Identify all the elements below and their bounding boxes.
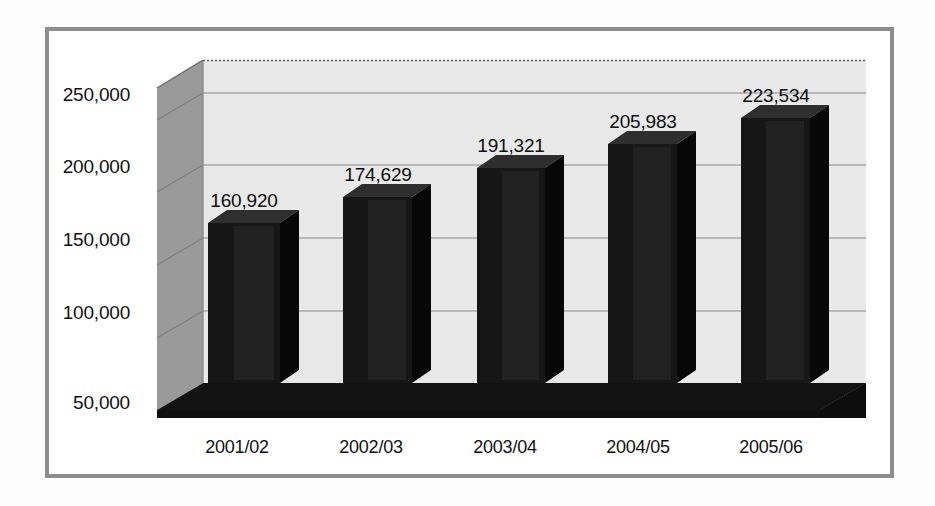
ytick-label-250000: 250,000 bbox=[10, 84, 130, 106]
bar-front-highlight bbox=[234, 226, 274, 380]
xtick-label-2003-04: 2003/04 bbox=[445, 437, 565, 458]
xtick-label-2004-05: 2004/05 bbox=[578, 437, 698, 458]
xtick-label-2005-06: 2005/06 bbox=[711, 437, 831, 458]
bar-side-face bbox=[810, 105, 829, 383]
bar-value-2004-05: 205,983 bbox=[578, 111, 708, 133]
bar-side-face bbox=[677, 131, 696, 383]
bar-side-face bbox=[280, 210, 299, 383]
chart-figure: 250,000 200,000 150,000 100,000 50,000 2… bbox=[0, 0, 935, 506]
bar-value-2001-02: 160,920 bbox=[179, 190, 309, 212]
xtick-label-2002-03: 2002/03 bbox=[311, 437, 431, 458]
bar-value-2005-06: 223,534 bbox=[711, 85, 841, 107]
bar-side-face bbox=[412, 184, 431, 383]
ytick-label-50000: 50,000 bbox=[10, 392, 130, 414]
bar-2001-02 bbox=[208, 210, 299, 383]
bar-value-2003-04: 191,321 bbox=[446, 135, 576, 157]
bar-side-face bbox=[545, 155, 564, 383]
bar-2003-04 bbox=[477, 155, 564, 383]
bar-2004-05 bbox=[608, 131, 696, 383]
bar-front-highlight bbox=[633, 147, 671, 380]
floor-top bbox=[157, 383, 866, 410]
chart-plot-area bbox=[0, 0, 935, 506]
bar-front-highlight bbox=[368, 200, 406, 380]
xtick-label-2001-02: 2001/02 bbox=[177, 437, 297, 458]
bar-front-highlight bbox=[502, 171, 539, 380]
bar-2005-06 bbox=[741, 105, 829, 383]
bar-front-highlight bbox=[766, 121, 804, 380]
ytick-label-100000: 100,000 bbox=[10, 302, 130, 324]
ytick-label-150000: 150,000 bbox=[10, 229, 130, 251]
left-side-wall bbox=[157, 60, 203, 410]
bar-value-2002-03: 174,629 bbox=[313, 164, 443, 186]
ytick-label-200000: 200,000 bbox=[10, 156, 130, 178]
bar-2002-03 bbox=[343, 184, 431, 383]
